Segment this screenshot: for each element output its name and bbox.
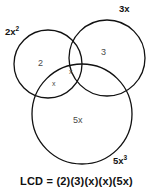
region-label-right: 3 <box>101 48 106 57</box>
region-label-left: 2 <box>38 59 43 68</box>
region-label-intersection-lower: x <box>52 80 56 87</box>
circle-label-right: 3x <box>119 4 130 14</box>
circle-label-left-exponent: 2 <box>16 25 20 32</box>
region-label-bottom: 5x <box>73 116 83 125</box>
region-label-intersection-upper: x <box>69 68 73 75</box>
lcd-venn-figure: 2x2 3x 5x3 2 3 5x x x LCD = (2)(3)(x)(x)… <box>0 0 153 194</box>
circle-left <box>14 30 82 98</box>
lcd-equation: LCD = (2)(3)(x)(x)(5x) <box>0 175 153 187</box>
circle-label-left: 2x2 <box>5 27 19 37</box>
circle-label-bottom: 5x3 <box>113 156 127 166</box>
circle-label-right-base: 3x <box>119 3 130 14</box>
circle-label-bottom-base: 5x <box>113 155 124 166</box>
circle-label-left-base: 2x <box>5 26 16 37</box>
circle-label-bottom-exponent: 3 <box>124 154 128 161</box>
venn-diagram-svg <box>0 0 153 194</box>
circle-right <box>69 20 145 96</box>
circle-bottom <box>32 64 132 164</box>
